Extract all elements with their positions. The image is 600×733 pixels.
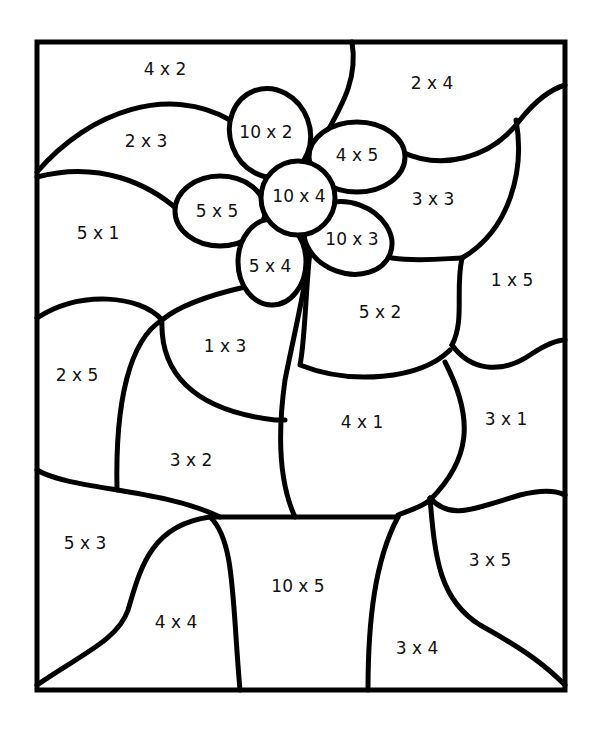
label-left-lower: 2 x 5 <box>56 365 99 385</box>
label-leaf-left: 1 x 3 <box>204 336 247 356</box>
label-left-middle: 5 x 1 <box>77 223 120 243</box>
label-leaf-bottom: 4 x 1 <box>341 412 384 432</box>
label-leaf-right: 5 x 2 <box>359 302 402 322</box>
label-bottom-right: 3 x 5 <box>469 550 512 570</box>
label-right-lower: 3 x 1 <box>485 409 528 429</box>
label-pot-right: 3 x 4 <box>396 638 439 658</box>
label-bottom-left: 5 x 3 <box>64 533 107 553</box>
region-border <box>392 258 462 260</box>
label-pot-left: 4 x 4 <box>155 612 198 632</box>
label-left-cloud: 2 x 3 <box>125 131 168 151</box>
coloring-worksheet: 4 x 2 2 x 4 2 x 3 5 x 1 10 x 2 4 x 5 10 … <box>0 0 600 733</box>
label-petal-left: 5 x 5 <box>196 201 239 221</box>
label-petal-top-right: 4 x 5 <box>336 145 379 165</box>
label-pot: 10 x 5 <box>271 576 324 596</box>
label-petal-top: 10 x 2 <box>239 122 292 142</box>
label-petal-bottom-left: 5 x 4 <box>249 256 292 276</box>
label-top-left-sky: 4 x 2 <box>144 59 187 79</box>
label-petal-bottom-right: 10 x 3 <box>325 229 378 249</box>
label-right-middle: 1 x 5 <box>491 270 534 290</box>
label-top-right-sky: 2 x 4 <box>411 73 454 93</box>
label-right-cloud: 3 x 3 <box>412 189 455 209</box>
label-stem-left-area: 3 x 2 <box>170 450 213 470</box>
label-flower-center: 10 x 4 <box>272 186 325 206</box>
